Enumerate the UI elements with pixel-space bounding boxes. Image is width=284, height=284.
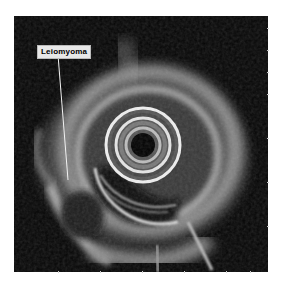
annotation-label-leiomyoma: Leiomyoma: [37, 45, 91, 59]
scale-ticks-right: [267, 16, 270, 272]
scale-ticks-bottom: [14, 271, 268, 274]
